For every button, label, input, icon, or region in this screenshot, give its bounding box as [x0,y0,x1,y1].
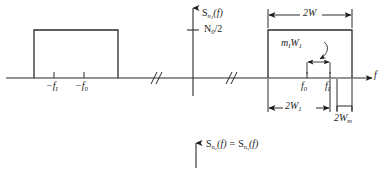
dimension-label-2w1-sub: 1 [298,105,301,112]
level-label-sub: 0 [211,28,214,35]
caption-equals: = [227,138,239,149]
dimension-label-2w1-text: 2W [285,100,298,111]
y-axis-label-symbol: S [202,7,208,18]
tick-label-fi: fI [325,81,330,91]
y-axis-label: Sn1(f) [202,8,223,18]
tick-label-minus-fi-sub: I [56,85,58,92]
annotation-w1-sub: 1 [299,42,302,49]
diagram-canvas [0,0,391,170]
x-axis-label: f [374,70,377,80]
dimension-label-2wm-sub: m [347,117,352,124]
tick-label-f0-sub: 0 [304,85,307,92]
caption-equation: Snc(f)=Sns(f) [206,139,258,149]
amplitude-axis [187,8,199,96]
psd-spectrum-figure: Sn1(f) N0/2 −fI −f0 f0 fI f 2W 2W1 2Wm m… [0,0,391,170]
tick-label-minus-fi: −fI [46,81,58,91]
caption-rhs-symbol: S [238,138,244,149]
tick-label-f0: f0 [301,81,307,91]
caption-rhs-arg: (f) [249,138,258,149]
negative-band-rect [34,30,118,78]
positive-band-ticks [307,72,330,78]
caption-rhs-subsub: s [247,146,249,151]
dimension-label-2wm-text: 2W [334,112,347,123]
caption-lhs-arg: (f) [217,138,226,149]
tick-label-minus-f0-symbol: −f [75,80,85,91]
dimension-label-2w: 2W [303,8,316,18]
tick-label-minus-f0: −f0 [75,81,88,91]
annotation-label-mi-w1: mIW1 [281,38,302,48]
dimension-mi-w1 [307,62,330,74]
dimension-label-2wm: 2Wm [334,113,352,123]
tick-label-fi-sub: I [328,85,330,92]
level-label-n0-over-2: N0/2 [204,24,222,34]
caption-lhs-symbol: S [206,138,212,149]
dimension-2wm [337,79,352,112]
level-label-rest: /2 [214,23,222,34]
y-axis-label-subsub: 1 [211,15,214,20]
y-axis-label-arg: (f) [213,7,222,18]
callout-curve-mi-w1 [320,42,327,59]
tick-label-minus-fi-symbol: −f [46,80,56,91]
negative-band-ticks [54,72,84,78]
annotation-w1-symbol: W [290,37,298,48]
dimension-label-2w-text: 2W [303,7,316,18]
tick-label-minus-f0-sub: 0 [85,85,88,92]
caption-lhs-subsub: c [215,146,217,151]
dimension-label-2w1: 2W1 [285,101,302,111]
